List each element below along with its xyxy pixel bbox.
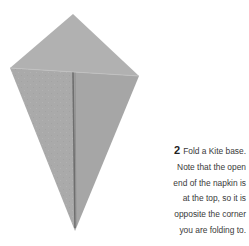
caption-line-4: at the top, so it is — [140, 191, 246, 207]
folded-napkin-image — [0, 0, 150, 246]
kite-base-illustration — [0, 0, 150, 246]
caption-line-6: you are folding to. — [140, 223, 246, 239]
caption-line-3: end of the napkin is — [140, 176, 246, 192]
step-caption: 2Fold a Kite base. Note that the open en… — [140, 143, 246, 239]
caption-line-2: Note that the open — [140, 160, 246, 176]
step-number: 2 — [174, 144, 180, 156]
caption-line-1: 2Fold a Kite base. — [140, 143, 246, 160]
caption-line-5: opposite the corner — [140, 207, 246, 223]
